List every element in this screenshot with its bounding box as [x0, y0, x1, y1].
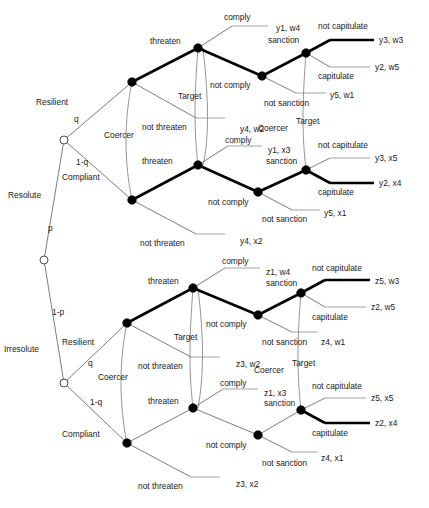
- decision-node-target2-s3[interactable]: [297, 289, 306, 298]
- payoff-s3-not-capitulate: z5, w3: [375, 276, 400, 286]
- payoff-s1-not-capitulate: y3, w3: [379, 35, 404, 45]
- decision-node-coercer2-s3[interactable]: [254, 311, 263, 320]
- edge-s1-not-comply: [198, 48, 262, 76]
- edge-s1-threaten: [132, 48, 198, 82]
- label-irresolute: Irresolute: [4, 344, 39, 354]
- player-label-target2-lower: Target: [292, 358, 316, 368]
- decision-node-target2-s2[interactable]: [302, 166, 311, 175]
- payoff-s3-capitulate: z2, w5: [371, 302, 396, 312]
- label-compliant-lower: Compliant: [62, 429, 100, 439]
- edge-s4-not-sanction: [258, 435, 292, 452]
- payoff-s4-capitulate: z2, x4: [375, 418, 398, 428]
- edge-s2-not-comply: [198, 165, 258, 192]
- label-compliant-upper: Compliant: [62, 172, 100, 182]
- edge-s4-not-comply: [193, 408, 258, 435]
- decision-node-coercer2-s2[interactable]: [254, 188, 263, 197]
- infoset-sanction-lower: [298, 293, 301, 410]
- action-s3-capitulate: capitulate: [312, 312, 348, 322]
- payoff-s4-not-capitulate: z5, x5: [371, 393, 394, 403]
- payoff-s1-not-sanction: y5, w1: [330, 90, 355, 100]
- label-resilient-upper: Resilient: [36, 97, 69, 107]
- payoff-s3-comply: z1, w4: [266, 267, 291, 277]
- decision-node-coercer-s3[interactable]: [123, 319, 132, 328]
- edge-s3-comply: [193, 268, 225, 288]
- payoff-s1-comply: y1, w4: [276, 23, 301, 33]
- payoff-s2-comply: y1, x3: [268, 145, 291, 155]
- infoset-target-lower: [190, 288, 193, 408]
- chance-node-irresolute[interactable]: [60, 379, 68, 387]
- action-s4-sanction: sanction: [264, 398, 296, 408]
- action-s1-not-capitulate: not capitulate: [318, 21, 368, 31]
- payoff-s1-not-threaten: y4, w2: [240, 124, 265, 134]
- edge-s4-comply: [193, 389, 223, 408]
- edge-s4-not-threaten: [127, 443, 191, 477]
- infoset-coercer-resolute: [126, 82, 132, 200]
- label-prob-p: p: [48, 223, 53, 233]
- action-s2-not-threaten: not threaten: [140, 238, 185, 248]
- label-prob-1mq-lower: 1-q: [90, 397, 102, 407]
- player-label-coercer-upper: Coercer: [104, 130, 134, 140]
- edge-s2-not-threaten: [132, 200, 196, 234]
- action-s4-comply: comply: [220, 378, 247, 388]
- chance-node-resolute[interactable]: [60, 136, 68, 144]
- payoff-s1-capitulate: y2, w5: [375, 62, 400, 72]
- action-s3-not-sanction: not sanction: [262, 337, 308, 347]
- label-prob-1mq-upper: 1-q: [76, 157, 88, 167]
- edge-s2-not-sanction: [258, 192, 292, 210]
- payoff-s4-not-sanction: z4, x1: [321, 453, 344, 463]
- action-s3-comply: comply: [222, 256, 249, 266]
- action-s1-capitulate: capitulate: [318, 71, 354, 81]
- edge-s1-not-sanction: [262, 76, 296, 93]
- action-s2-capitulate: capitulate: [318, 187, 354, 197]
- action-s1-not-comply: not comply: [210, 80, 251, 90]
- action-s3-not-capitulate: not capitulate: [312, 263, 362, 273]
- infoset-target-upper: [195, 48, 198, 165]
- payoff-s3-not-sanction: z4, w1: [321, 337, 346, 347]
- action-s3-threaten: threaten: [148, 276, 179, 286]
- player-label-target-upper: Target: [178, 91, 202, 101]
- payoff-s4-not-threaten: z3, x2: [236, 479, 259, 489]
- payoff-s2-not-threaten: y4, x2: [240, 236, 263, 246]
- edge-s2-comply: [198, 146, 228, 165]
- tree-canvas: Resolute p 1-p Irresolute Resilient q 1-…: [0, 0, 429, 508]
- decision-node-coercer-s2[interactable]: [128, 196, 137, 205]
- decision-node-target-s4[interactable]: [189, 404, 198, 413]
- action-s3-not-threaten: not threaten: [138, 361, 183, 371]
- label-prob-q-lower: q: [88, 358, 93, 368]
- action-s4-not-capitulate: not capitulate: [312, 381, 362, 391]
- decision-node-coercer-s1[interactable]: [128, 78, 137, 87]
- label-prob-q-upper: q: [74, 114, 79, 124]
- edge-s4-threaten: [127, 408, 193, 443]
- decision-node-target-s1[interactable]: [194, 44, 203, 53]
- action-s2-threaten: threaten: [142, 156, 173, 166]
- edge-s3-not-sanction: [258, 315, 292, 332]
- decision-node-coercer2-s4[interactable]: [254, 431, 263, 440]
- edge-s3-sanction: [258, 293, 301, 315]
- decision-node-target2-s4[interactable]: [297, 406, 306, 415]
- edge-s2-sanction: [258, 170, 306, 192]
- payoff-s2-not-sanction: y5, x1: [324, 208, 347, 218]
- payoff-s3-not-threaten: z3, w2: [236, 359, 261, 369]
- infoset-target-upper2: [203, 48, 208, 165]
- edge-root-irresolute: [44, 260, 64, 383]
- action-s4-capitulate: capitulate: [312, 428, 348, 438]
- action-s2-comply: comply: [225, 135, 252, 145]
- action-s3-sanction: sanction: [266, 278, 298, 288]
- action-s2-sanction: sanction: [266, 156, 298, 166]
- action-s2-not-comply: not comply: [208, 197, 249, 207]
- edge-s3-threaten: [127, 288, 193, 323]
- decision-node-coercer-s4[interactable]: [123, 439, 132, 448]
- decision-node-target-s3[interactable]: [189, 284, 198, 293]
- edge-s3-not-comply: [193, 288, 258, 315]
- game-tree-diagram: Resolute p 1-p Irresolute Resilient q 1-…: [0, 0, 429, 508]
- decision-node-coercer2-s1[interactable]: [258, 72, 267, 81]
- chance-node-root[interactable]: [40, 256, 48, 264]
- payoff-s2-not-capitulate: y3, x5: [375, 153, 398, 163]
- edge-s4-sanction: [258, 410, 301, 435]
- decision-node-target-s2[interactable]: [194, 161, 203, 170]
- edge-s2-threaten: [132, 165, 198, 200]
- decision-node-target2-s1[interactable]: [302, 49, 311, 58]
- player-label-coercer-lower: Coercer: [98, 372, 128, 382]
- action-s4-threaten: threaten: [148, 396, 179, 406]
- action-s1-threaten: threaten: [150, 36, 181, 46]
